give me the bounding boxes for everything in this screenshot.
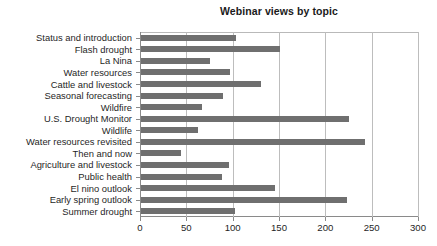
gridline-200 xyxy=(325,32,326,217)
y-axis-label: Water resources xyxy=(64,67,132,78)
bar xyxy=(141,150,181,156)
x-axis-label: 150 xyxy=(259,222,299,233)
bar xyxy=(141,185,275,191)
plot-area xyxy=(140,32,418,217)
y-axis-label: U.S. Drought Monitor xyxy=(44,113,132,124)
y-axis-label: Wildfire xyxy=(101,102,132,113)
y-axis-label: Seasonal forecasting xyxy=(44,90,132,101)
bar xyxy=(141,197,347,203)
y-axis-label: Water resources revisited xyxy=(26,136,132,147)
x-axis-label: 250 xyxy=(352,222,392,233)
y-axis-category-labels: Status and introductionFlash droughtLa N… xyxy=(0,32,136,217)
x-axis-tick xyxy=(186,217,187,221)
y-axis-label: Agriculture and livestock xyxy=(30,159,132,170)
x-axis-label: 50 xyxy=(166,222,206,233)
y-axis-label: Public health xyxy=(78,171,132,182)
x-axis-tick xyxy=(140,217,141,221)
bar xyxy=(141,174,222,180)
chart-title: Webinar views by topic xyxy=(140,5,418,17)
x-axis-label: 300 xyxy=(398,222,437,233)
y-axis-label: Flash drought xyxy=(75,44,132,55)
y-axis-label: Summer drought xyxy=(62,206,132,217)
y-axis-label: Status and introduction xyxy=(36,32,132,43)
y-axis-label: La Nina xyxy=(100,55,132,66)
y-axis-label: Then and now xyxy=(73,148,132,159)
bar xyxy=(141,139,365,145)
bar xyxy=(141,46,280,52)
bar xyxy=(141,35,236,41)
y-axis-label: Wildlife xyxy=(102,125,132,136)
x-axis-label: 0 xyxy=(120,222,160,233)
gridline-150 xyxy=(279,32,280,217)
y-axis-label: Cattle and livestock xyxy=(51,79,132,90)
x-axis-tick xyxy=(279,217,280,221)
x-axis-tick xyxy=(233,217,234,221)
bar xyxy=(141,127,198,133)
bar xyxy=(141,93,223,99)
x-axis-label: 100 xyxy=(213,222,253,233)
bar xyxy=(141,58,210,64)
gridline-300 xyxy=(418,32,419,217)
bar xyxy=(141,81,261,87)
y-axis-label: Early spring outlook xyxy=(50,194,132,205)
x-axis-tick xyxy=(372,217,373,221)
gridline-250 xyxy=(372,32,373,217)
bar xyxy=(141,116,349,122)
x-axis-tick xyxy=(325,217,326,221)
bar xyxy=(141,104,202,110)
bar-chart: Webinar views by topic Status and introd… xyxy=(0,0,437,246)
y-axis-label: El nino outlook xyxy=(70,183,132,194)
x-axis-tick xyxy=(418,217,419,221)
bar xyxy=(141,69,230,75)
x-axis-label: 200 xyxy=(305,222,345,233)
bar xyxy=(141,208,235,214)
bar xyxy=(141,162,229,168)
